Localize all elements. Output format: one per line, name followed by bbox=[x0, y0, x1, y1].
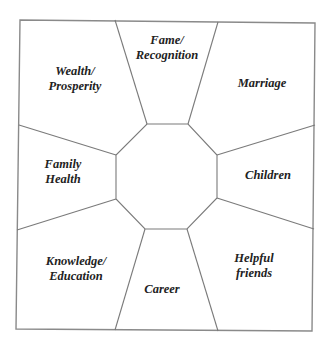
region-career-label: Career bbox=[144, 282, 179, 297]
region-family-label: Family Health bbox=[45, 157, 82, 187]
helpful-line-1: Helpful bbox=[234, 251, 274, 266]
region-helpful-label: Helpful friends bbox=[234, 251, 274, 281]
family-line-1: Family bbox=[45, 157, 82, 172]
children-line-1: Children bbox=[245, 168, 291, 183]
region-children-label: Children bbox=[245, 168, 291, 183]
family-line-2: Health bbox=[45, 172, 82, 187]
helpful-line-2: friends bbox=[234, 266, 274, 281]
fame-line-1: Fame/ bbox=[136, 33, 199, 48]
region-marriage-label: Marriage bbox=[238, 76, 287, 91]
region-fame-label: Fame/ Recognition bbox=[136, 33, 199, 63]
region-wealth-label: Wealth/ Prosperity bbox=[49, 64, 102, 94]
knowledge-line-2: Education bbox=[46, 269, 106, 284]
fame-line-2: Recognition bbox=[136, 48, 199, 63]
wealth-line-1: Wealth/ bbox=[49, 64, 102, 79]
knowledge-line-1: Knowledge/ bbox=[46, 254, 106, 269]
marriage-line-1: Marriage bbox=[238, 76, 287, 91]
wealth-line-2: Prosperity bbox=[49, 79, 102, 94]
region-knowledge-label: Knowledge/ Education bbox=[46, 254, 106, 284]
career-line-1: Career bbox=[144, 282, 179, 297]
